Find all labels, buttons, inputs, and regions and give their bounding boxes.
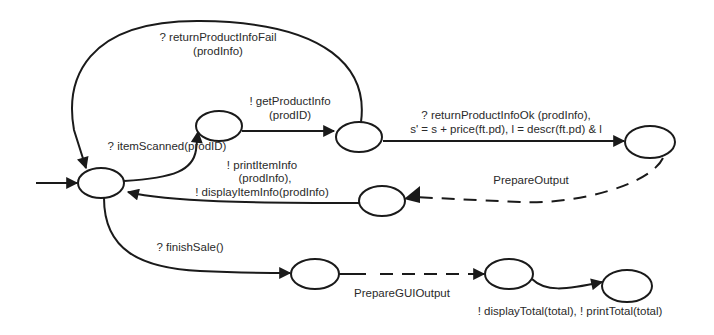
transition-print-display-item: ! printItemInfo (prodInfo), ! displayIte… — [128, 159, 359, 203]
prepare-output-label: PrepareOutput — [493, 174, 569, 186]
state-s2 — [336, 122, 382, 152]
return-fail-label-1: ? returnProductInfoFail — [160, 31, 277, 43]
transition-return-ok: ? returnProductInfoOk (prodInfo), s' = s… — [383, 109, 624, 141]
transition-finish-sale: ? finishSale() — [104, 198, 290, 273]
transition-prepare-output: PrepareOutput — [404, 158, 663, 203]
state-s1 — [196, 111, 242, 141]
state-s7 — [602, 270, 652, 302]
state-s4 — [359, 186, 405, 216]
return-fail-label-2: (prodInfo) — [193, 45, 243, 57]
state-s6 — [485, 259, 533, 289]
print-display-item-label-3: ! displayItemInfo(prodInfo) — [195, 186, 329, 198]
transition-prepare-gui-output: PrepareGUIOutput — [339, 274, 484, 299]
prepare-gui-output-label: PrepareGUIOutput — [354, 287, 451, 299]
finish-sale-label: ? finishSale() — [156, 241, 223, 253]
finish-sale-arrow — [104, 198, 290, 273]
prepare-output-arrowhead — [404, 186, 420, 203]
state-s3 — [625, 126, 675, 158]
state-machine-diagram: ? itemScanned(prodID) ! getProductInfo (… — [0, 0, 714, 335]
display-print-total-label: ! displayTotal(total), ! printTotal(tota… — [478, 305, 663, 317]
state-s5 — [291, 259, 339, 289]
item-scanned-label: ? itemScanned(prodID) — [108, 140, 227, 152]
get-product-info-label-1: ! getProductInfo — [249, 95, 330, 107]
display-print-total-arrow — [532, 279, 602, 288]
transition-get-product-info: ! getProductInfo (prodID) — [242, 95, 334, 131]
return-ok-label-1: ? returnProductInfoOk (prodInfo), — [421, 109, 590, 121]
get-product-info-label-2: (prodID) — [269, 109, 311, 121]
print-display-item-label-2: (prodInfo), — [238, 172, 291, 184]
state-initial — [78, 168, 124, 198]
return-ok-label-2: s' = s + price(ft.pd), l = descr(ft.pd) … — [410, 123, 602, 135]
print-display-item-label-1: ! printItemInfo — [227, 159, 297, 171]
